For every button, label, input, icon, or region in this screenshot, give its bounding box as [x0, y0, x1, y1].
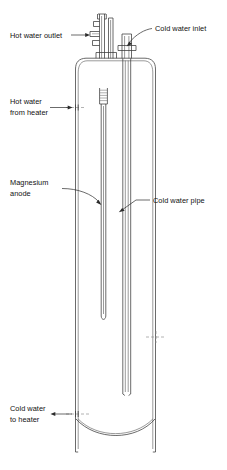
tank-shell — [76, 58, 156, 452]
cold-water-inlet-label: Cold water inlet — [155, 24, 206, 33]
water-heater-diagram: Hot water outlet Cold water inlet Hot wa… — [0, 0, 227, 470]
hot-water-outlet-leader — [71, 33, 90, 37]
hot-water-from-heater-leader — [50, 106, 73, 110]
hot-water-from-heater-label-line2: from heater — [10, 108, 49, 117]
anode-collar — [100, 88, 108, 104]
dip-tube — [123, 58, 131, 395]
tank-dome-bottom — [76, 419, 155, 436]
outlet-nipple — [90, 14, 117, 58]
magnesium-anode-label-line1: Magnesium — [10, 178, 48, 187]
anode-rod — [100, 88, 108, 319]
cold-water-to-heater-leader — [51, 412, 73, 416]
magnesium-anode-leader — [62, 189, 101, 206]
center-mark — [146, 331, 166, 343]
cold-water-to-heater-label-line2: to heater — [10, 415, 40, 424]
cold-water-inlet-leader — [127, 29, 152, 47]
hot-water-outlet-label: Hot water outlet — [10, 31, 62, 40]
magnesium-anode-label-line2: anode — [10, 189, 31, 198]
hot-water-from-heater-label-line1: Hot water — [10, 97, 42, 106]
cold-water-to-heater-label-line1: Cold water — [10, 404, 46, 413]
cold-water-pipe-leader — [119, 200, 150, 212]
cold-water-pipe-label: Cold water pipe — [153, 196, 205, 205]
